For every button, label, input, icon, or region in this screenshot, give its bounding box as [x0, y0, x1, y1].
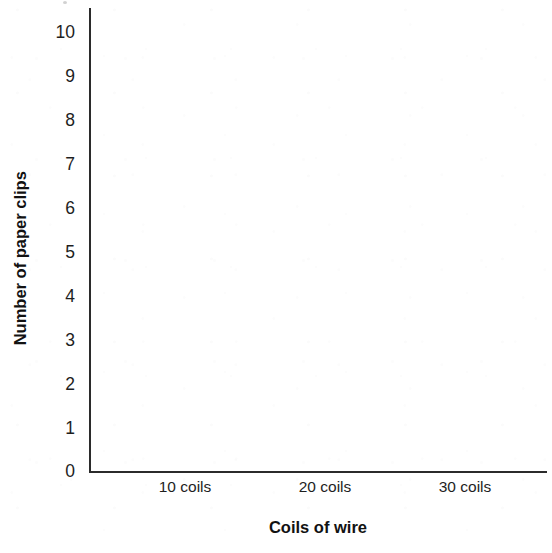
x-axis-line — [89, 471, 547, 473]
y-tick-label-6: 6 — [25, 200, 89, 218]
y-tick-label-4: 4 — [25, 288, 89, 306]
x-tick-label-10-coils: 10 coils — [159, 479, 212, 495]
y-axis-title: Number of paper clips — [12, 133, 29, 383]
x-tick-label-30-coils: 30 coils — [439, 479, 492, 495]
y-tick-label-2: 2 — [25, 376, 89, 394]
y-tick-label-8: 8 — [25, 112, 89, 130]
y-tick-label-7: 7 — [25, 156, 89, 174]
y-tick-label-1: 1 — [25, 420, 89, 438]
y-tick-label-0: 0 — [25, 463, 89, 481]
x-axis-title: Coils of wire — [89, 519, 547, 536]
y-tick-label-3: 3 — [25, 332, 89, 350]
y-tick-label-9: 9 — [25, 68, 89, 86]
y-tick-label-5: 5 — [25, 244, 89, 262]
y-tick-label-10: 10 — [25, 24, 89, 42]
chart-canvas: 10 9 8 7 6 5 4 3 2 1 0 10 coils 20 coils… — [0, 0, 552, 553]
x-tick-label-20-coils: 20 coils — [299, 479, 352, 495]
plot-area[interactable] — [91, 8, 547, 471]
